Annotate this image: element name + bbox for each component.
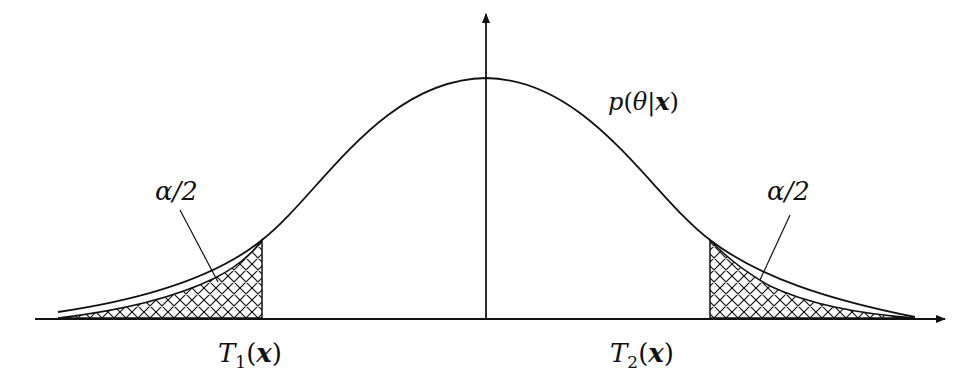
right-pointer-line: [760, 215, 790, 280]
right-tail-label: α/2: [767, 176, 810, 206]
upper-bound-label: T2(x): [610, 338, 674, 372]
curve-label: p(θ|x): [608, 87, 679, 117]
diagram-canvas: p(θ|x) α/2 α/2 T1(x) T2(x): [0, 0, 968, 385]
right-tail-region: [710, 240, 915, 318]
left-tail-label: α/2: [155, 176, 198, 206]
lower-bound-label: T1(x): [218, 338, 282, 372]
left-pointer-line: [180, 210, 218, 282]
